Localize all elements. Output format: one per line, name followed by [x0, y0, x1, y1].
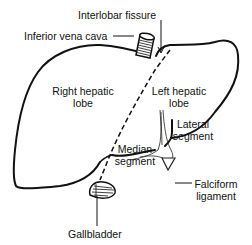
- lateral-segment-label: Lateral segment: [170, 118, 216, 142]
- inferior-vena-cava-shape: [136, 32, 155, 58]
- falciform-ligament-label: Falciform ligament: [190, 178, 242, 202]
- interlobar-fissure-label: Interlobar fissure: [78, 9, 156, 21]
- inferior-vena-cava-label: Inferior vena cava: [24, 30, 107, 42]
- right-hepatic-lobe-label-line2: lobe: [48, 97, 118, 109]
- gallbladder-shape: [90, 182, 115, 198]
- right-hepatic-lobe-label-line1: Right hepatic: [48, 85, 118, 97]
- falciform-ligament-label-line1: Falciform: [190, 178, 242, 190]
- right-hepatic-lobe-label: Right hepatic lobe: [48, 85, 118, 109]
- lateral-segment-label-line2: segment: [170, 130, 216, 142]
- left-hepatic-lobe-label: Left hepatic lobe: [146, 85, 212, 109]
- median-segment-label: Median segment: [112, 143, 158, 167]
- left-hepatic-lobe-label-line1: Left hepatic: [146, 85, 212, 97]
- median-segment-label-line1: Median: [112, 143, 158, 155]
- left-hepatic-lobe-label-line2: lobe: [146, 97, 212, 109]
- median-segment-label-line2: segment: [112, 155, 158, 167]
- gallbladder-label: Gallbladder: [68, 228, 122, 240]
- falciform-ligament-label-line2: ligament: [190, 190, 242, 202]
- lateral-segment-label-line1: Lateral: [170, 118, 216, 130]
